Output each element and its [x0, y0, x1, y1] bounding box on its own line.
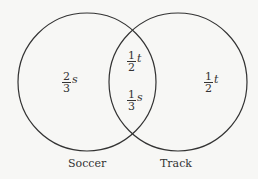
both-track-value: 12 t	[127, 50, 141, 73]
soccer-circle	[18, 13, 156, 151]
both-soccer-value: 13 s	[127, 89, 143, 112]
track-only-value: 12 t	[204, 71, 218, 94]
track-circle	[109, 13, 247, 151]
soccer-only-value: 23 s	[62, 71, 78, 94]
track-label: Track	[160, 157, 192, 170]
soccer-label: Soccer	[68, 157, 106, 170]
